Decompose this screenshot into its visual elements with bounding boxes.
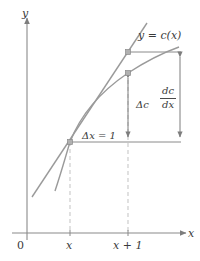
x-axis-label: x bbox=[188, 228, 194, 239]
tangency-point-marker bbox=[68, 140, 73, 145]
origin-label: 0 bbox=[17, 240, 24, 251]
delta-x-label: Δx = 1 bbox=[82, 131, 116, 141]
derivative-denominator: dx bbox=[160, 100, 176, 111]
curve-point-marker bbox=[126, 71, 131, 76]
y-axis-label: y bbox=[22, 8, 28, 19]
delta-c-label: Δc bbox=[136, 100, 149, 110]
tangent-line bbox=[32, 23, 147, 197]
x-tick-label-x: x bbox=[66, 240, 72, 251]
tangent-point-marker bbox=[126, 50, 131, 55]
curve-label: y = c(x) bbox=[138, 30, 181, 41]
marginal-cost-figure: y x 0 x x + 1 y = c(x) Δx = 1 Δc dc dx bbox=[0, 0, 200, 261]
x-tick-label-x-plus-1: x + 1 bbox=[113, 240, 142, 251]
derivative-fraction-label: dc dx bbox=[160, 86, 176, 110]
derivative-numerator: dc bbox=[160, 86, 176, 97]
